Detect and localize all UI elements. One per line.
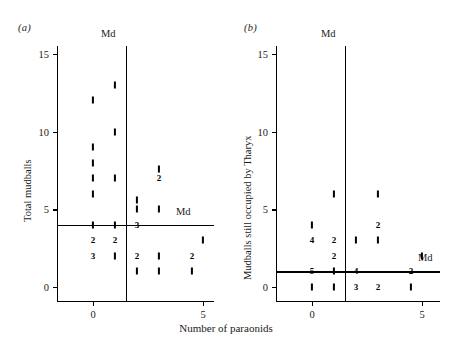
x-axis-line — [276, 301, 440, 302]
data-point-mark — [92, 175, 94, 182]
panel-b: (b)05101505Mudballs still occupied by Th… — [226, 0, 452, 348]
data-point-mark — [355, 237, 357, 244]
x-tick-label: 5 — [419, 309, 424, 320]
y-tick-label: 0 — [19, 282, 49, 293]
data-point-mark — [191, 268, 193, 275]
y-axis-title: Total mudballs — [22, 159, 33, 222]
data-point-mark — [377, 190, 379, 197]
y-tick — [53, 209, 57, 210]
y-tick-label: 15 — [19, 48, 49, 59]
data-point-mark — [421, 252, 423, 259]
y-tick-label: 0 — [238, 282, 268, 293]
figure-scatter-panels: (a)05101505Total mudballsMdMd2322322(b)0… — [0, 0, 452, 348]
data-point-mark — [92, 190, 94, 197]
y-tick — [272, 287, 276, 288]
y-tick — [272, 132, 276, 133]
data-point-count: 5 — [310, 267, 315, 276]
data-point-mark — [136, 268, 138, 275]
data-point-count: 2 — [376, 283, 381, 292]
data-point-mark — [114, 81, 116, 88]
data-point-mark — [158, 268, 160, 275]
data-point-mark — [136, 196, 138, 203]
data-point-count: 3 — [135, 220, 140, 229]
median-label-vertical: Md — [321, 28, 336, 39]
y-tick-label: 10 — [19, 126, 49, 137]
x-tick-label: 0 — [90, 309, 95, 320]
data-point-count: 2 — [113, 236, 118, 245]
data-point-mark — [114, 221, 116, 228]
y-axis-line — [57, 46, 58, 301]
data-point-count: 4 — [354, 267, 359, 276]
data-point-mark — [377, 237, 379, 244]
data-point-count: 2 — [91, 236, 96, 245]
data-point-mark — [114, 252, 116, 259]
data-point-mark — [92, 159, 94, 166]
data-point-mark — [158, 206, 160, 213]
data-point-mark — [333, 190, 335, 197]
data-point-count: 4 — [310, 236, 315, 245]
median-label-vertical: Md — [101, 28, 116, 39]
data-point-mark — [114, 175, 116, 182]
data-point-mark — [333, 284, 335, 291]
y-axis-line — [276, 46, 277, 301]
panel-a: (a)05101505Total mudballsMdMd2322322 — [0, 0, 226, 348]
x-tick — [312, 302, 313, 306]
data-point-mark — [311, 284, 313, 291]
x-tick-label: 5 — [200, 309, 205, 320]
data-point-count: 2 — [190, 251, 195, 260]
data-point-count: 3 — [91, 251, 96, 260]
data-point-mark — [136, 206, 138, 213]
panel-label-a: (a) — [18, 22, 31, 33]
data-point-mark — [92, 144, 94, 151]
x-tick — [93, 302, 94, 306]
y-tick — [53, 287, 57, 288]
data-point-count: 3 — [354, 283, 359, 292]
x-tick-label: 0 — [309, 309, 314, 320]
median-label-horizontal: Md — [176, 206, 191, 217]
data-point-mark — [311, 221, 313, 228]
y-tick-label: 15 — [238, 48, 268, 59]
data-point-mark — [92, 221, 94, 228]
panel-label-b: (b) — [244, 22, 257, 33]
y-tick — [53, 54, 57, 55]
median-line-vertical — [345, 46, 346, 301]
y-tick — [272, 209, 276, 210]
x-axis-title: Number of paraonids — [179, 322, 272, 334]
data-point-count: 2 — [157, 174, 162, 183]
data-point-count: 2 — [135, 251, 140, 260]
y-tick — [272, 54, 276, 55]
x-tick — [203, 302, 204, 306]
data-point-mark — [410, 284, 412, 291]
data-point-mark — [114, 128, 116, 135]
median-line-vertical — [126, 46, 127, 301]
data-point-mark — [158, 252, 160, 259]
y-axis-title: Mudballs still occupied by Tharyx — [242, 136, 253, 280]
x-axis-line — [57, 301, 214, 302]
data-point-mark — [333, 268, 335, 275]
data-point-mark — [202, 237, 204, 244]
x-tick — [422, 302, 423, 306]
data-point-mark — [158, 165, 160, 172]
y-tick — [53, 132, 57, 133]
data-point-count: 2 — [409, 267, 414, 276]
data-point-count: 2 — [376, 220, 381, 229]
data-point-count: 2 — [332, 236, 337, 245]
data-point-count: 2 — [332, 251, 337, 260]
data-point-mark — [92, 97, 94, 104]
